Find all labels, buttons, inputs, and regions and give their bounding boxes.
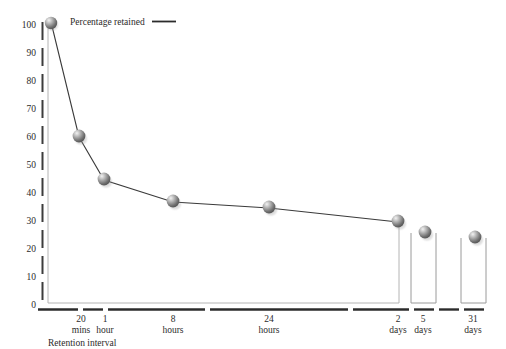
x-tick-label-value: 8	[171, 314, 176, 324]
x-tick-label-value: 20	[76, 314, 86, 324]
y-tick-label: 30	[27, 216, 37, 226]
data-point-marker	[98, 173, 114, 190]
x-tick-label-unit: hours	[162, 325, 183, 335]
x-tick-label-unit: hour	[96, 325, 114, 335]
data-points	[44, 17, 485, 248]
x-tick-label-unit: days	[389, 325, 407, 335]
retention-chart: 100 90 80 70 60 50 40 30 20 10 0 20 mins	[0, 0, 506, 349]
y-tick-label: 80	[27, 76, 37, 86]
detached-column-5-days	[411, 233, 436, 303]
y-tick-label: 60	[27, 132, 37, 142]
x-tick-label-value: 5	[421, 314, 426, 324]
y-tick-label: 0	[31, 300, 36, 310]
data-point-marker	[419, 226, 435, 243]
y-tick-label: 70	[27, 104, 37, 114]
x-tick-label-value: 31	[468, 314, 478, 324]
y-tick-labels: 100 90 80 70 60 50 40 30 20 10 0	[22, 20, 37, 310]
x-tick-label-unit: days	[414, 325, 432, 335]
y-tick-label: 20	[27, 244, 37, 254]
detached-column-31-days	[461, 238, 486, 303]
y-tick-label: 100	[22, 20, 37, 30]
x-tick-label-value: 2	[396, 314, 401, 324]
data-line	[51, 22, 398, 222]
x-tick-label-unit: hours	[258, 325, 279, 335]
data-point-marker	[469, 231, 485, 248]
data-point-marker	[44, 17, 60, 33]
y-tick-label: 50	[27, 160, 37, 170]
data-point-marker	[73, 130, 89, 147]
x-tick-labels: 20 mins 1 hour 8 hours 24 hours 2 days 5…	[72, 314, 482, 335]
plot-frame	[48, 22, 399, 303]
x-tick-label-unit: days	[464, 325, 482, 335]
data-point-marker	[167, 195, 183, 212]
chart-canvas: 100 90 80 70 60 50 40 30 20 10 0 20 mins	[0, 0, 506, 349]
data-point-marker	[392, 215, 408, 232]
y-tick-label: 40	[27, 188, 37, 198]
y-tick-label: 10	[27, 272, 37, 282]
x-axis-title: Retention interval	[48, 338, 117, 348]
legend-label: Percentage retained	[70, 17, 145, 27]
x-tick-label-value: 1	[103, 314, 108, 324]
legend: Percentage retained	[70, 17, 176, 27]
y-tick-label: 90	[27, 48, 37, 58]
data-point-marker	[263, 201, 279, 218]
x-tick-label-unit: mins	[72, 325, 91, 335]
x-tick-label-value: 24	[264, 314, 274, 324]
